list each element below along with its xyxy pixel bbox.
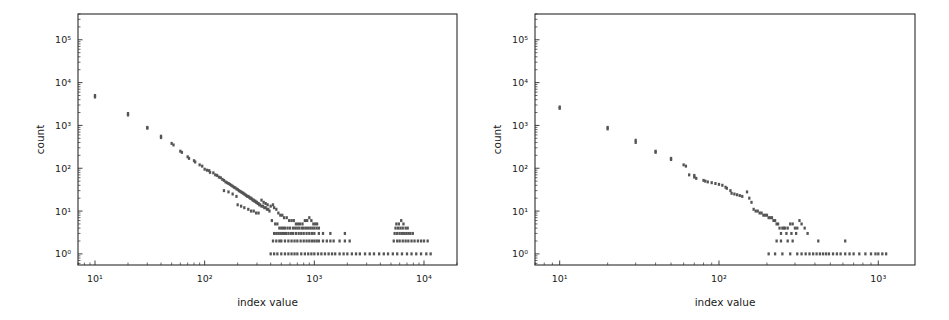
data-point xyxy=(784,227,786,230)
data-point xyxy=(396,252,398,255)
data-point xyxy=(844,239,846,242)
y-tick-label: 10⁰ xyxy=(55,248,71,259)
data-point xyxy=(240,205,242,208)
data-point xyxy=(729,189,731,192)
data-point xyxy=(417,239,419,242)
data-point xyxy=(322,239,324,242)
data-point xyxy=(789,252,791,255)
data-point xyxy=(284,239,286,242)
data-point xyxy=(407,227,409,230)
data-point xyxy=(804,227,806,230)
data-point xyxy=(789,222,791,225)
data-point xyxy=(257,212,259,215)
figure-container: 10¹10²10³10⁴10⁰10¹10²10³10⁴10⁵index valu… xyxy=(0,0,949,320)
x-axis-label: index value xyxy=(237,296,298,308)
data-point xyxy=(746,190,748,193)
data-point xyxy=(329,232,331,235)
data-point xyxy=(326,239,328,242)
x-axis-label: index value xyxy=(695,296,756,308)
data-point xyxy=(237,203,239,206)
data-point xyxy=(298,227,300,230)
data-point xyxy=(309,227,311,230)
data-point xyxy=(730,192,732,195)
data-point xyxy=(299,222,301,225)
data-point xyxy=(301,222,303,225)
data-point xyxy=(420,239,422,242)
data-point xyxy=(704,180,706,183)
data-point xyxy=(290,252,292,255)
data-point xyxy=(383,252,385,255)
data-point xyxy=(308,216,310,219)
data-point xyxy=(774,219,776,222)
data-point xyxy=(206,169,208,172)
data-point xyxy=(387,252,389,255)
data-point xyxy=(297,222,299,225)
data-point xyxy=(559,107,561,110)
data-point xyxy=(315,227,317,230)
data-point xyxy=(280,252,282,255)
data-point xyxy=(260,199,262,202)
data-point xyxy=(305,227,307,230)
data-point xyxy=(812,252,814,255)
data-point xyxy=(425,252,427,255)
data-point xyxy=(332,239,334,242)
data-point xyxy=(795,232,797,235)
data-point xyxy=(695,177,697,180)
data-point xyxy=(247,208,249,211)
data-point xyxy=(296,252,298,255)
data-point xyxy=(270,205,272,208)
data-point xyxy=(288,219,290,222)
data-point xyxy=(304,219,306,222)
data-point xyxy=(344,239,346,242)
data-point xyxy=(293,252,295,255)
data-point xyxy=(318,227,320,230)
x-tick-label: 10² xyxy=(197,273,213,284)
data-point xyxy=(344,232,346,235)
data-point xyxy=(275,232,277,235)
data-point xyxy=(394,227,396,230)
data-point xyxy=(785,232,787,235)
data-point xyxy=(322,232,324,235)
data-point xyxy=(271,219,273,222)
x-tick-label: 10⁴ xyxy=(416,273,432,284)
data-point xyxy=(817,239,819,242)
data-point xyxy=(400,219,402,222)
data-point xyxy=(298,232,300,235)
data-point xyxy=(393,239,395,242)
data-point xyxy=(796,252,798,255)
data-point xyxy=(787,239,789,242)
data-point xyxy=(290,219,292,222)
data-point xyxy=(798,219,800,222)
data-point xyxy=(399,232,401,235)
data-point xyxy=(329,239,331,242)
y-tick-label: 10⁴ xyxy=(512,77,528,88)
data-point xyxy=(429,252,431,255)
data-point xyxy=(172,143,174,146)
data-point xyxy=(752,208,754,211)
y-axis-label: count xyxy=(34,125,46,155)
data-point xyxy=(885,252,887,255)
data-point xyxy=(423,239,425,242)
data-point xyxy=(396,239,398,242)
data-point xyxy=(392,252,394,255)
data-point xyxy=(194,160,196,163)
data-point xyxy=(287,239,289,242)
data-point xyxy=(127,114,129,117)
data-point xyxy=(280,239,282,242)
data-point xyxy=(307,227,309,230)
data-point xyxy=(338,252,340,255)
data-point xyxy=(393,232,395,235)
data-point xyxy=(305,232,307,235)
data-point xyxy=(198,163,200,166)
data-point xyxy=(293,219,295,222)
data-point xyxy=(839,252,841,255)
data-point xyxy=(780,239,782,242)
data-point xyxy=(721,184,723,187)
data-point xyxy=(670,158,672,161)
data-point xyxy=(313,239,315,242)
data-point xyxy=(318,232,320,235)
data-point xyxy=(369,252,371,255)
data-point xyxy=(654,151,656,154)
data-point xyxy=(874,252,876,255)
data-point xyxy=(311,239,313,242)
